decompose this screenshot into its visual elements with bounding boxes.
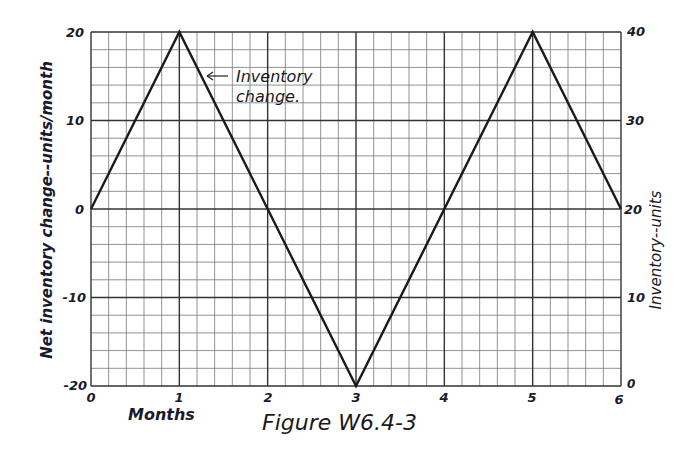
left-tick-neg20: -20 bbox=[64, 378, 88, 393]
annotation-inventory-change: Inventory change. bbox=[207, 67, 313, 106]
x-axis-label: Months bbox=[128, 405, 195, 424]
right-tick-40: 40 bbox=[626, 24, 645, 39]
x-tick-6: 6 bbox=[614, 392, 623, 407]
left-y-axis-label: Net inventory change--units/month bbox=[38, 61, 56, 359]
right-y-axis-label: Inventory--units bbox=[647, 190, 665, 309]
left-tick-neg10: -10 bbox=[63, 290, 87, 305]
left-tick-10: 10 bbox=[66, 113, 84, 128]
right-tick-20: 20 bbox=[624, 202, 642, 217]
x-tick-3: 3 bbox=[351, 390, 360, 405]
x-tick-4: 4 bbox=[438, 390, 448, 405]
right-tick-0: 0 bbox=[627, 377, 635, 391]
annotation-text-line1: Inventory bbox=[236, 67, 313, 86]
figure-title: Figure W6.4-3 bbox=[262, 410, 417, 435]
annotation-text-line2: change. bbox=[236, 87, 300, 106]
x-tick-5: 5 bbox=[527, 390, 536, 405]
left-tick-20: 20 bbox=[66, 25, 84, 40]
right-tick-30: 30 bbox=[626, 113, 644, 128]
right-tick-10: 10 bbox=[627, 290, 645, 305]
chart: 20 10 0 -10 -20 40 30 20 10 0 0 1 2 3 4 … bbox=[0, 0, 694, 469]
left-tick-0: 0 bbox=[75, 202, 84, 217]
x-tick-2: 2 bbox=[263, 390, 272, 405]
left-y-tick-labels: 20 10 0 -10 -20 bbox=[63, 25, 88, 393]
x-tick-0: 0 bbox=[86, 390, 95, 405]
x-tick-1: 1 bbox=[174, 390, 183, 405]
right-y-tick-labels: 40 30 20 10 0 bbox=[624, 24, 645, 391]
